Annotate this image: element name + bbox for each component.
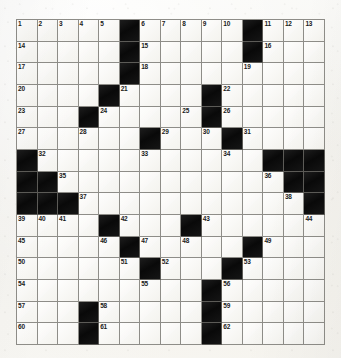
grid-cell[interactable] — [284, 42, 305, 64]
grid-cell[interactable] — [161, 237, 182, 259]
grid-cell[interactable] — [181, 128, 202, 150]
grid-cell[interactable] — [304, 237, 325, 259]
grid-cell[interactable] — [161, 150, 182, 172]
grid-cell[interactable] — [99, 258, 120, 280]
grid-cell[interactable] — [284, 302, 305, 324]
grid-cell[interactable] — [161, 85, 182, 107]
grid-cell[interactable] — [99, 280, 120, 302]
grid-cell[interactable]: 25 — [181, 107, 202, 129]
grid-cell[interactable] — [181, 42, 202, 64]
grid-cell[interactable] — [222, 172, 243, 194]
grid-cell[interactable] — [58, 128, 79, 150]
grid-cell[interactable]: 37 — [79, 193, 100, 215]
grid-cell[interactable] — [58, 85, 79, 107]
grid-cell[interactable] — [181, 280, 202, 302]
grid-cell[interactable]: 60 — [17, 323, 38, 345]
grid-cell[interactable] — [181, 258, 202, 280]
grid-cell[interactable]: 11 — [263, 20, 284, 42]
grid-cell[interactable] — [79, 215, 100, 237]
grid-cell[interactable] — [263, 193, 284, 215]
grid-cell[interactable] — [222, 63, 243, 85]
grid-cell[interactable]: 46 — [99, 237, 120, 259]
grid-cell[interactable]: 2 — [38, 20, 59, 42]
grid-cell[interactable] — [181, 323, 202, 345]
grid-cell[interactable] — [304, 302, 325, 324]
grid-cell[interactable] — [140, 215, 161, 237]
grid-cell[interactable]: 47 — [140, 237, 161, 259]
grid-cell[interactable] — [161, 42, 182, 64]
grid-cell[interactable] — [120, 193, 141, 215]
grid-cell[interactable] — [99, 193, 120, 215]
grid-cell[interactable]: 26 — [222, 107, 243, 129]
grid-cell[interactable] — [181, 85, 202, 107]
grid-cell[interactable] — [58, 280, 79, 302]
grid-cell[interactable] — [58, 42, 79, 64]
grid-cell[interactable]: 9 — [202, 20, 223, 42]
grid-cell[interactable] — [58, 302, 79, 324]
grid-cell[interactable] — [38, 302, 59, 324]
grid-cell[interactable]: 16 — [263, 42, 284, 64]
grid-cell[interactable] — [222, 215, 243, 237]
grid-cell[interactable] — [120, 323, 141, 345]
grid-cell[interactable] — [243, 85, 264, 107]
grid-cell[interactable]: 59 — [222, 302, 243, 324]
grid-cell[interactable] — [263, 63, 284, 85]
grid-cell[interactable]: 43 — [202, 215, 223, 237]
grid-cell[interactable] — [58, 150, 79, 172]
grid-cell[interactable]: 51 — [120, 258, 141, 280]
grid-cell[interactable] — [202, 193, 223, 215]
grid-cell[interactable] — [284, 128, 305, 150]
grid-cell[interactable] — [79, 150, 100, 172]
grid-cell[interactable] — [58, 258, 79, 280]
grid-cell[interactable]: 34 — [222, 150, 243, 172]
grid-cell[interactable]: 38 — [284, 193, 305, 215]
grid-cell[interactable]: 52 — [161, 258, 182, 280]
grid-cell[interactable] — [263, 258, 284, 280]
grid-cell[interactable]: 23 — [17, 107, 38, 129]
grid-cell[interactable] — [58, 107, 79, 129]
grid-cell[interactable] — [140, 323, 161, 345]
grid-cell[interactable] — [222, 42, 243, 64]
grid-cell[interactable]: 17 — [17, 63, 38, 85]
grid-cell[interactable] — [120, 302, 141, 324]
grid-cell[interactable]: 5 — [99, 20, 120, 42]
grid-cell[interactable]: 30 — [202, 128, 223, 150]
grid-cell[interactable] — [140, 172, 161, 194]
grid-cell[interactable]: 57 — [17, 302, 38, 324]
grid-cell[interactable]: 18 — [140, 63, 161, 85]
grid-cell[interactable] — [243, 280, 264, 302]
grid-cell[interactable]: 8 — [181, 20, 202, 42]
grid-cell[interactable] — [181, 193, 202, 215]
grid-cell[interactable] — [304, 107, 325, 129]
grid-cell[interactable] — [243, 215, 264, 237]
grid-cell[interactable] — [99, 128, 120, 150]
grid-cell[interactable] — [58, 63, 79, 85]
grid-cell[interactable] — [79, 172, 100, 194]
grid-cell[interactable] — [304, 128, 325, 150]
grid-cell[interactable]: 32 — [38, 150, 59, 172]
grid-cell[interactable] — [243, 172, 264, 194]
grid-cell[interactable] — [202, 258, 223, 280]
grid-cell[interactable]: 53 — [243, 258, 264, 280]
grid-cell[interactable] — [99, 42, 120, 64]
grid-cell[interactable] — [284, 258, 305, 280]
grid-cell[interactable]: 40 — [38, 215, 59, 237]
grid-cell[interactable]: 42 — [120, 215, 141, 237]
grid-cell[interactable]: 21 — [120, 85, 141, 107]
grid-cell[interactable]: 22 — [222, 85, 243, 107]
grid-cell[interactable]: 54 — [17, 280, 38, 302]
grid-cell[interactable] — [263, 107, 284, 129]
grid-cell[interactable]: 35 — [58, 172, 79, 194]
grid-cell[interactable]: 44 — [304, 215, 325, 237]
grid-cell[interactable]: 4 — [79, 20, 100, 42]
grid-cell[interactable] — [79, 42, 100, 64]
grid-cell[interactable] — [243, 302, 264, 324]
grid-cell[interactable] — [161, 323, 182, 345]
grid-cell[interactable] — [222, 193, 243, 215]
grid-cell[interactable] — [284, 323, 305, 345]
grid-cell[interactable] — [58, 323, 79, 345]
grid-cell[interactable]: 13 — [304, 20, 325, 42]
grid-cell[interactable]: 61 — [99, 323, 120, 345]
grid-cell[interactable] — [99, 63, 120, 85]
grid-cell[interactable]: 7 — [161, 20, 182, 42]
